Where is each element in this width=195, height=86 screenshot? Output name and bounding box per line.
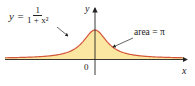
fraction: 1 1 + x² (27, 6, 48, 25)
equation-label: y = 1 1 + x² (9, 6, 48, 25)
area-pointer (113, 38, 133, 47)
y-axis-label: y (85, 3, 89, 14)
area-label: area = π (134, 27, 165, 37)
x-axis-label: x (182, 65, 186, 76)
figure: y = 1 1 + x² area = π y x 0 (0, 0, 195, 86)
origin-label: 0 (84, 62, 89, 72)
eq-pointer (57, 27, 68, 36)
